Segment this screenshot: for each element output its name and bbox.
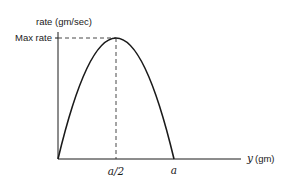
x-tick-label-half-a: a/2 (108, 165, 125, 177)
x-axis-label-var: y (246, 152, 254, 164)
rate-curve (58, 38, 174, 159)
max-rate-label: Max rate (15, 32, 52, 43)
rate-vs-mass-diagram: rate (gm/sec) Max rate a/2 a y (gm) (0, 0, 285, 183)
x-axis-label-unit: (gm) (255, 153, 275, 164)
y-axis-label: rate (gm/sec) (36, 16, 92, 27)
x-tick-label-a: a (171, 164, 177, 176)
